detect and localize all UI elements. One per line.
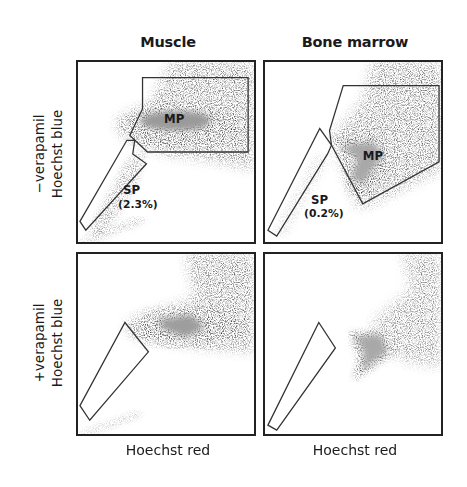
y-axis-label: Hoechst blue xyxy=(48,59,66,249)
row-condition: +verapamil xyxy=(30,248,48,438)
sp-gate xyxy=(268,322,335,430)
scatter-density xyxy=(78,254,254,434)
mp-gate-label: MP xyxy=(363,149,384,163)
sp-gate-label: SP xyxy=(123,183,140,197)
sp-gate-percent: (0.2%) xyxy=(304,208,344,221)
row-label-plus-verapamil: +verapamil Hoechst blue xyxy=(30,248,70,438)
plot-bone-marrow-minus-verapamil: MP SP (0.2%) xyxy=(263,60,443,244)
scatter-density: MP SP (2.3%) xyxy=(78,62,254,242)
mp-gate-label: MP xyxy=(164,112,185,126)
scatter-density xyxy=(265,254,441,434)
x-axis-label-bone-marrow: Hoechst red xyxy=(263,442,447,458)
row-condition: −verapamil xyxy=(30,59,48,249)
plot-bone-marrow-plus-verapamil xyxy=(263,252,443,436)
x-axis-label-muscle: Hoechst red xyxy=(76,442,260,458)
plot-muscle-minus-verapamil: MP SP (2.3%) xyxy=(76,60,256,244)
row-label-minus-verapamil: −verapamil Hoechst blue xyxy=(30,59,70,249)
scatter-density: MP SP (0.2%) xyxy=(265,62,441,242)
sp-gate-percent: (2.3%) xyxy=(118,198,158,211)
y-axis-label: Hoechst blue xyxy=(48,248,66,438)
column-title-muscle: Muscle xyxy=(76,34,260,50)
plot-muscle-plus-verapamil xyxy=(76,252,256,436)
column-title-bone-marrow: Bone marrow xyxy=(263,34,447,50)
sp-gate-label: SP xyxy=(311,193,328,207)
